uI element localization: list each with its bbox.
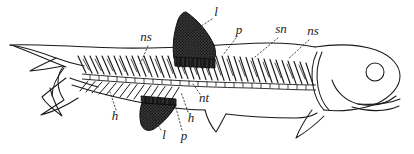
- head-dorsal-profile: [315, 45, 400, 111]
- label-sn-right: sn: [275, 21, 287, 36]
- fish-anatomy-figure: l ns p sn ns nt h l p h: [0, 0, 414, 154]
- leader-p-ventral: [176, 108, 182, 130]
- label-l-dorsal: l: [214, 4, 218, 19]
- operculum-inner-arc: [317, 52, 329, 110]
- pelvic-fin-group: [140, 96, 176, 130]
- label-ns-right: ns: [307, 23, 319, 38]
- caudal-fin-upper-lobe: [10, 45, 63, 71]
- caudal-fin-inner-ray: [14, 46, 66, 67]
- label-l-ventral: l: [162, 127, 166, 142]
- label-h-left: h: [112, 108, 119, 123]
- dorsal-fin-blade: [173, 12, 215, 60]
- belly-contour: [226, 113, 317, 118]
- head-cheek-line: [332, 80, 396, 105]
- label-ns-left: ns: [140, 29, 152, 44]
- eye: [366, 63, 384, 81]
- label-p-ventral: p: [180, 128, 188, 143]
- pelvic-fin-blade: [140, 103, 176, 130]
- label-nt-center: nt: [199, 90, 210, 105]
- leader-ns-right: [288, 40, 309, 59]
- ventral-contour: [72, 85, 205, 110]
- anal-fin: [205, 110, 226, 132]
- leader-sn-right: [255, 38, 278, 57]
- fish-skeleton-illustration: l ns p sn ns nt h l p h: [0, 0, 414, 154]
- label-p-dorsal: p: [235, 22, 243, 37]
- leader-p-dorsal: [223, 38, 236, 55]
- pectoral-fin: [296, 110, 324, 138]
- label-h-right: h: [188, 110, 195, 125]
- jaw-upper-line: [358, 99, 400, 104]
